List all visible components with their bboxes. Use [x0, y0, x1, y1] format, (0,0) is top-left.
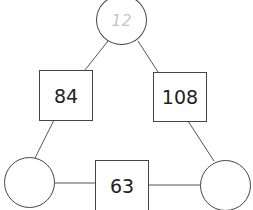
right-box: 108 [153, 72, 207, 122]
right-box-value: 108 [162, 86, 198, 108]
bottom-box: 63 [95, 160, 149, 210]
left-box: 84 [39, 70, 93, 121]
top-circle-value: 12 [111, 11, 131, 30]
bottom-left-circle[interactable] [4, 157, 55, 208]
left-box-value: 84 [54, 85, 78, 107]
bottom-right-circle[interactable] [200, 160, 251, 210]
bottom-box-value: 63 [110, 175, 134, 197]
